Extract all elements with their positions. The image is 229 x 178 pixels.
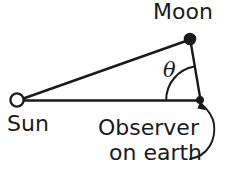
observer-node-marker (196, 96, 203, 103)
observer-label: Observer (98, 117, 199, 139)
moon-node-marker (184, 33, 195, 44)
theta-angle-label: θ (163, 60, 176, 81)
sun-label: Sun (7, 113, 49, 135)
sun-node-marker (10, 93, 23, 106)
edge-moon-to-observer (191, 44, 201, 100)
on-earth-label: on earth (109, 142, 202, 164)
figure-root: Moon Sun Observer on earth θ (0, 0, 229, 178)
moon-label: Moon (153, 1, 213, 23)
edge-sun-to-moon (22, 41, 186, 99)
